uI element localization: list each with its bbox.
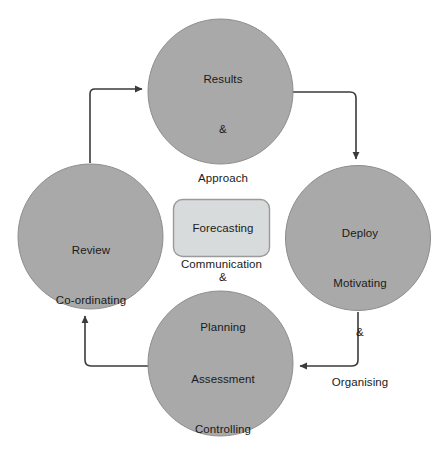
node-assessment[interactable] xyxy=(148,291,293,436)
arrow-assessment-to-review xyxy=(85,316,150,366)
node-deploy[interactable] xyxy=(286,166,431,311)
node-review[interactable] xyxy=(18,164,163,309)
arrow-review-to-results xyxy=(90,89,142,163)
arrow-results-to-deploy xyxy=(293,92,356,159)
node-communication[interactable] xyxy=(174,200,270,257)
cycle-diagram: Results & Approach Forecasting & Plannin… xyxy=(0,0,437,450)
node-results[interactable] xyxy=(148,19,293,164)
diagram-canvas xyxy=(0,0,437,450)
arrow-deploy-to-assessment xyxy=(300,312,358,366)
